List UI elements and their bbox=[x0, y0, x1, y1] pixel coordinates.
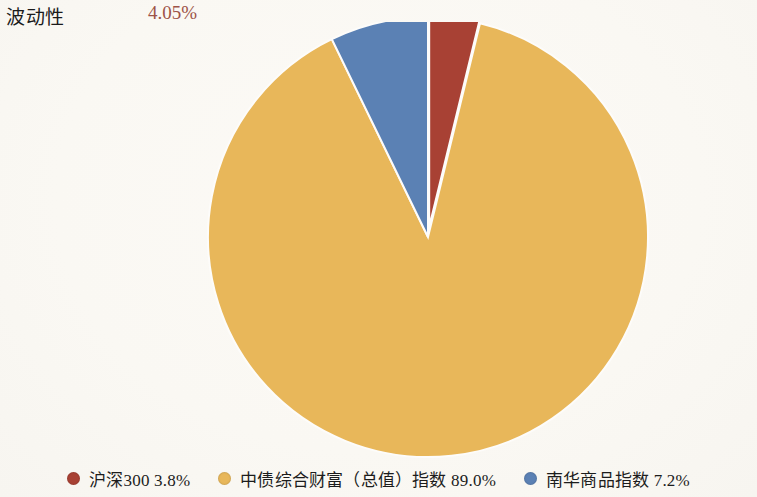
metric-value: 4.05% bbox=[148, 2, 197, 24]
pie-slice-group bbox=[208, 22, 648, 457]
legend-item-label: 沪深300 3.8% bbox=[89, 466, 190, 491]
dot-icon bbox=[524, 472, 537, 485]
legend-item[interactable]: 中债综合财富（总值）指数 89.0% bbox=[218, 466, 496, 491]
pie-chart-svg bbox=[0, 22, 757, 462]
legend-item-label: 南华商品指数 7.2% bbox=[546, 466, 690, 491]
legend-item[interactable]: 沪深300 3.8% bbox=[67, 466, 190, 491]
chart-legend: 沪深300 3.8% 中债综合财富（总值）指数 89.0% 南华商品指数 7.2… bbox=[0, 463, 757, 493]
legend-item[interactable]: 南华商品指数 7.2% bbox=[524, 466, 690, 491]
dot-icon bbox=[218, 472, 231, 485]
dot-icon bbox=[67, 472, 80, 485]
legend-item-label: 中债综合财富（总值）指数 89.0% bbox=[240, 466, 496, 491]
pie-chart bbox=[0, 22, 757, 462]
